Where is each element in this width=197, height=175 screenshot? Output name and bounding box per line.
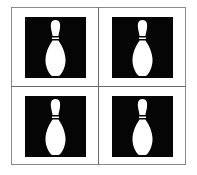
tile-top-left[interactable]	[25, 17, 86, 78]
bowling-pin-icon	[25, 17, 86, 78]
bowling-pin-icon	[25, 96, 86, 157]
bowling-pin-icon	[112, 17, 173, 78]
tile-top-right[interactable]	[112, 17, 173, 78]
horizontal-divider	[11, 86, 186, 87]
tile-bottom-right[interactable]	[112, 96, 173, 157]
tile-bottom-left[interactable]	[25, 96, 86, 157]
bowling-pin-icon	[112, 96, 173, 157]
